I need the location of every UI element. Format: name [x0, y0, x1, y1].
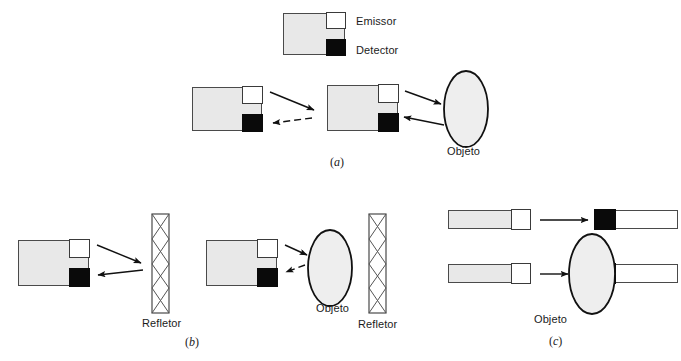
- panel-a-beam-out-left: [270, 92, 314, 110]
- panel-c-objeto-label: Objeto: [534, 313, 567, 325]
- sensor-principle-figure: Emissor Detector Objeto (a) Refletor Obj…: [0, 0, 681, 361]
- emissor-window: [326, 12, 346, 29]
- panel-a-objeto-ellipse: [444, 71, 488, 147]
- panel-b-beam-out-left: [97, 245, 141, 263]
- panel-b-refletor-left-label: Refletor: [142, 317, 181, 329]
- panel-b-beam-return-right-dashed: [286, 265, 305, 272]
- emissor-window: [511, 263, 531, 284]
- panel-b-objeto-ellipse: [308, 230, 352, 306]
- detector-window: [242, 114, 263, 132]
- panel-b-objeto-label: Objeto: [316, 302, 349, 314]
- detector-window: [257, 268, 278, 287]
- panel-b-sensor-right: [206, 240, 277, 286]
- panel-b-refletor-right-label: Refletor: [358, 318, 397, 330]
- emissor-window: [378, 84, 399, 103]
- panel-b-refletor-right: [369, 214, 386, 313]
- panel-b-beam-return-left: [98, 270, 143, 275]
- panel-b-beam-out-right: [285, 245, 307, 255]
- emissor-window: [511, 209, 531, 230]
- panel-c-receiver-top: [595, 210, 678, 229]
- panel-a-beam-out-right: [405, 91, 441, 104]
- detector-window: [594, 263, 616, 284]
- panel-a-beam-return-left-dashed: [273, 118, 312, 123]
- detector-window: [594, 209, 616, 230]
- detector-window: [326, 39, 346, 56]
- detector-window: [69, 268, 90, 287]
- panel-a-caption: (a): [330, 155, 344, 170]
- panel-b-sensor-left: [18, 240, 89, 286]
- panel-c-emitter-top: [448, 210, 530, 229]
- panel-b-refletor-left: [152, 214, 169, 313]
- panel-a-sensor-left: [192, 87, 262, 131]
- panel-a-objeto-label: Objeto: [447, 145, 480, 157]
- panel-c-receiver-bottom: [595, 264, 678, 283]
- panel-a-beam-return-right: [404, 117, 444, 125]
- emissor-window: [69, 239, 90, 258]
- panel-b-caption: (b): [185, 335, 199, 350]
- emissor-window: [257, 239, 278, 258]
- panel-c-emitter-bottom: [448, 264, 530, 283]
- detector-window: [378, 113, 399, 132]
- panel-c-caption: (c): [549, 334, 562, 349]
- detector-label: Detector: [356, 44, 398, 56]
- panel-a-sensor-right: [327, 85, 398, 131]
- legend-sensor-head: [283, 13, 345, 55]
- emissor-label: Emissor: [356, 15, 396, 27]
- emissor-window: [242, 86, 263, 104]
